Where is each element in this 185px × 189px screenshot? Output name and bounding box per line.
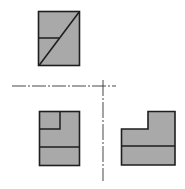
side-view-outline [122,112,176,166]
top-view [39,12,80,66]
projection-diagram [0,0,185,189]
side-view [122,112,176,166]
front-view [40,112,80,166]
